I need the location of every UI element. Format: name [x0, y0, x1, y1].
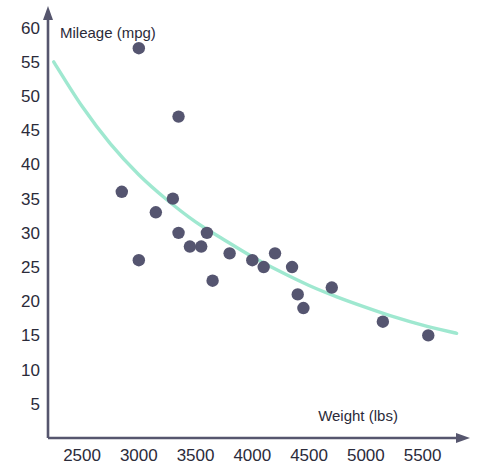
data-point	[172, 227, 184, 239]
x-tick-label: 4500	[290, 446, 328, 465]
data-point	[286, 261, 298, 273]
y-tick-label: 25	[21, 258, 40, 277]
data-point	[172, 110, 184, 122]
axes	[43, 6, 470, 443]
x-tick-label: 5000	[347, 446, 385, 465]
data-point	[422, 329, 434, 341]
y-tick-label: 55	[21, 53, 40, 72]
data-point	[377, 316, 389, 328]
data-point	[167, 192, 179, 204]
x-tick-label: 3000	[120, 446, 158, 465]
data-point	[116, 186, 128, 198]
y-tick-label: 15	[21, 326, 40, 345]
trend-curve	[54, 62, 457, 334]
x-axis-label: Weight (lbs)	[318, 407, 398, 424]
x-axis-arrow	[456, 433, 470, 443]
y-tick-label: 40	[21, 155, 40, 174]
data-point	[195, 240, 207, 252]
x-tick-label: 2500	[63, 446, 101, 465]
scatter-chart: 51015202530354045505560 2500300035004000…	[0, 0, 479, 466]
chart-canvas: 51015202530354045505560 2500300035004000…	[0, 0, 479, 466]
x-tick-label: 3500	[177, 446, 215, 465]
data-point	[223, 247, 235, 259]
y-tick-label: 45	[21, 121, 40, 140]
y-axis-label: Mileage (mpg)	[60, 24, 156, 41]
data-point	[150, 206, 162, 218]
y-tick-label: 10	[21, 361, 40, 380]
data-point	[326, 281, 338, 293]
data-point	[269, 247, 281, 259]
data-point	[201, 227, 213, 239]
y-axis-arrow	[43, 6, 53, 20]
data-point	[206, 275, 218, 287]
y-tick-label: 5	[31, 395, 40, 414]
data-point	[184, 240, 196, 252]
x-tick-label: 4000	[233, 446, 271, 465]
data-point	[292, 288, 304, 300]
data-points	[116, 42, 435, 342]
data-point	[257, 261, 269, 273]
x-tick-label: 5500	[404, 446, 442, 465]
data-point	[133, 254, 145, 266]
data-point	[246, 254, 258, 266]
y-tick-label: 20	[21, 292, 40, 311]
data-point	[133, 42, 145, 54]
y-tick-label: 35	[21, 190, 40, 209]
data-point	[297, 302, 309, 314]
y-tick-label: 50	[21, 87, 40, 106]
y-tick-label: 30	[21, 224, 40, 243]
y-tick-labels: 51015202530354045505560	[21, 19, 40, 414]
x-tick-labels: 2500300035004000450050005500	[63, 446, 441, 465]
y-tick-label: 60	[21, 19, 40, 38]
